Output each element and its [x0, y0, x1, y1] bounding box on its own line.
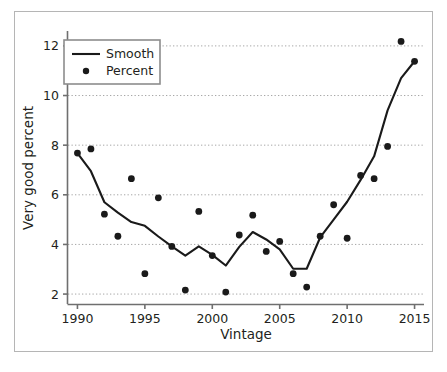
data-point-1992: [101, 211, 108, 218]
data-point-2012: [371, 175, 378, 182]
data-point-2005: [276, 238, 283, 245]
data-point-1997: [168, 243, 175, 250]
data-point-2008: [317, 233, 324, 240]
chart-figure: 24681012 199019952000200520102015 Vintag…: [0, 0, 447, 372]
data-point-1996: [155, 194, 162, 201]
y-tick-label-8: 8: [51, 138, 59, 153]
legend-label-smooth: Smooth: [106, 46, 154, 61]
y-axis-tick-labels: 24681012: [43, 38, 59, 301]
data-point-2010: [344, 235, 351, 242]
x-tick-label-2005: 2005: [264, 311, 296, 326]
data-point-1995: [141, 270, 148, 277]
data-point-2013: [384, 143, 391, 150]
y-tick-label-6: 6: [51, 187, 59, 202]
data-point-1994: [128, 175, 135, 182]
legend-label-percent: Percent: [106, 63, 153, 78]
x-tick-label-2015: 2015: [399, 311, 431, 326]
x-tick-label-2000: 2000: [196, 311, 228, 326]
data-point-1990: [74, 150, 81, 157]
data-point-1993: [114, 233, 121, 240]
y-tick-label-10: 10: [43, 88, 59, 103]
x-tick-label-1990: 1990: [62, 311, 94, 326]
y-tick-label-12: 12: [43, 38, 59, 53]
vintage-very-good-percent-chart: 24681012 199019952000200520102015 Vintag…: [0, 0, 447, 372]
data-point-2003: [249, 212, 256, 219]
data-point-2015: [411, 58, 418, 65]
data-point-1991: [88, 145, 95, 152]
data-point-1999: [195, 208, 202, 215]
data-point-2009: [330, 201, 337, 208]
data-point-2001: [222, 289, 229, 296]
legend-percent-dot-icon: [83, 68, 89, 74]
x-tick-label-1995: 1995: [129, 311, 161, 326]
data-point-1998: [182, 287, 189, 294]
x-axis-tick-labels: 199019952000200520102015: [62, 311, 431, 326]
chart-legend: Smooth Percent: [64, 40, 160, 84]
data-point-2014: [398, 38, 405, 45]
data-point-2006: [290, 270, 297, 277]
data-point-2000: [209, 252, 216, 259]
x-tick-label-2010: 2010: [331, 311, 363, 326]
data-point-2007: [303, 284, 310, 291]
y-tick-label-2: 2: [51, 287, 59, 302]
data-point-2002: [236, 232, 243, 239]
x-axis-title: Vintage: [220, 326, 272, 342]
smooth-series-line: [77, 61, 414, 268]
y-tick-label-4: 4: [51, 237, 59, 252]
data-point-2004: [263, 248, 270, 255]
data-point-2011: [357, 172, 364, 179]
y-axis-title: Very good percent: [20, 106, 36, 230]
